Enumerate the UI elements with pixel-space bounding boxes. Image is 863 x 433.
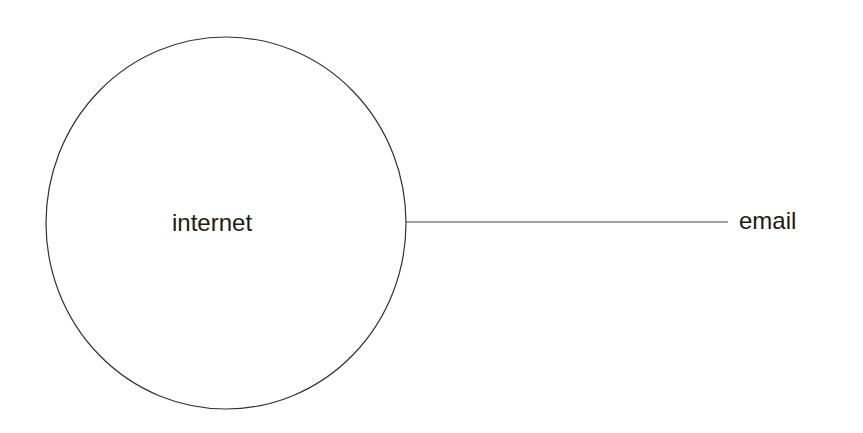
diagram-canvas — [0, 0, 863, 433]
email-node-label: email — [739, 209, 796, 233]
internet-node-label: internet — [172, 211, 252, 235]
